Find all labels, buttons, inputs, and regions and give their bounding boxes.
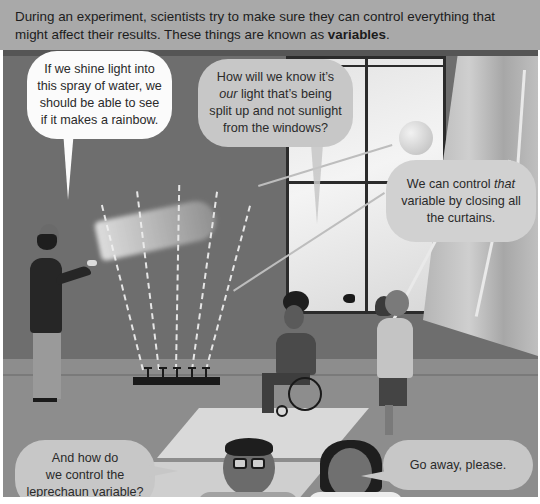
speech-bubble-tail [311,144,323,224]
sprinkler-nozzle [159,367,167,377]
sprinkler-nozzle [188,367,196,377]
curtain-person-figure [363,290,443,440]
speech-bubble-wheelchair-person: How will we know it’s our light that’s b… [198,59,353,147]
dark-shirt [30,258,62,333]
intro-bold-term: variables [328,27,386,42]
bearded-man-figure [25,220,95,410]
glasses [233,458,247,469]
flashlight-beam [94,197,220,261]
window-mullion [365,59,368,311]
wheelchair-wheel [288,377,322,411]
speech-bubble-curtain-person: We can control that variable by closing … [386,160,536,242]
speech-bubble-tail [361,470,391,482]
lab-coat [308,492,403,497]
speech-bubble-glasses-person: And how do we control the leprechaun var… [15,440,155,497]
sprinkler-nozzle [173,367,181,377]
flashlight-icon [87,260,97,266]
sprinkler-nozzle [202,367,210,377]
sun-icon [399,121,433,155]
speech-bubble-tail [148,465,178,477]
beard [37,234,57,250]
intro-text: During an experiment, scientists try to … [15,9,495,42]
glasses-person-figure [193,440,303,497]
speech-bubble-tail [63,130,74,200]
light-sweater [377,318,413,378]
wheelchair-person-figure [258,305,338,435]
illustration-scene: If we shine light into this spray of wat… [3,50,538,497]
speech-bubble-flashlight-man: If we shine light into this spray of wat… [27,51,172,139]
jacket [276,333,316,375]
bird-icon [343,294,355,303]
intro-caption: During an experiment, scientists try to … [0,0,540,50]
sprinkler-base [133,377,220,385]
speech-bubble-labcoat-person: Go away, please. [383,440,533,490]
sprinkler-nozzle [144,367,152,377]
